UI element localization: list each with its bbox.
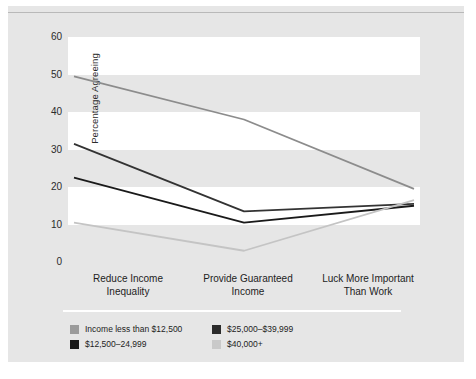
legend-item: Income less than $12,500 xyxy=(70,324,212,334)
legend-swatch xyxy=(212,340,221,349)
x-tick-label-line: Than Work xyxy=(308,285,428,298)
legend-label: $25,000–$39,999 xyxy=(227,324,293,334)
x-tick-label: Provide GuaranteedIncome xyxy=(188,272,308,298)
y-tick-label: 30 xyxy=(26,145,62,155)
x-tick-label-line: Income xyxy=(188,285,308,298)
y-tick-label: 20 xyxy=(26,182,62,192)
data-lines xyxy=(68,37,420,262)
legend-swatch xyxy=(212,325,221,334)
legend-item: $40,000+ xyxy=(212,339,400,349)
x-tick-label: Luck More ImportantThan Work xyxy=(308,272,428,298)
data-series-line xyxy=(74,76,414,189)
chart-legend: Income less than $12,500$25,000–$39,999$… xyxy=(70,324,400,349)
x-axis-labels: Reduce IncomeInequalityProvide Guarantee… xyxy=(68,272,428,298)
panel-top-rule xyxy=(8,12,464,13)
legend-item: $12,500–24,999 xyxy=(70,339,212,349)
data-series-line xyxy=(74,200,414,251)
x-tick-label-line: Inequality xyxy=(68,285,188,298)
y-tick-label: 50 xyxy=(26,70,62,80)
legend-separator xyxy=(63,310,401,312)
legend-swatch xyxy=(70,340,79,349)
legend-item: $25,000–$39,999 xyxy=(212,324,400,334)
legend-label: $12,500–24,999 xyxy=(85,339,146,349)
y-tick-label: 10 xyxy=(26,220,62,230)
y-tick-label: 40 xyxy=(26,107,62,117)
y-tick-label: 0 xyxy=(26,257,62,267)
plot-area: 0102030405060 Percentage Agreeing xyxy=(68,37,420,262)
chart-panel: 0102030405060 Percentage Agreeing Reduce… xyxy=(8,6,464,362)
legend-label: Income less than $12,500 xyxy=(85,324,182,334)
x-tick-label: Reduce IncomeInequality xyxy=(68,272,188,298)
x-tick-label-line: Luck More Important xyxy=(308,272,428,285)
x-tick-label-line: Provide Guaranteed xyxy=(188,272,308,285)
x-tick-label-line: Reduce Income xyxy=(68,272,188,285)
legend-label: $40,000+ xyxy=(227,339,263,349)
data-series-line xyxy=(74,144,414,212)
legend-swatch xyxy=(70,325,79,334)
y-axis-ticks: 0102030405060 xyxy=(24,37,68,262)
y-tick-label: 60 xyxy=(26,32,62,42)
